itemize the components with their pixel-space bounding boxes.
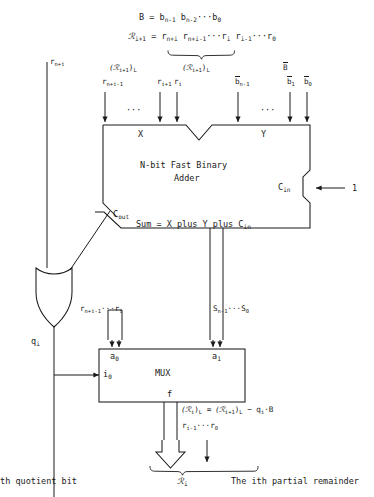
- group-label-b: B: [283, 64, 288, 72]
- result-underbrace: [150, 466, 258, 475]
- group-label-middle: (ℛi+1)L: [183, 64, 210, 73]
- cin-value-label: 1: [352, 184, 357, 193]
- bit-label-y2: b1: [287, 78, 295, 87]
- cin-label: Cin: [278, 183, 290, 193]
- mux-select-label: i0: [103, 370, 112, 380]
- remainder-underbrace: [168, 51, 235, 60]
- mux-output-label: f: [167, 390, 172, 399]
- bit-label-x3: ri: [174, 78, 182, 87]
- division-datapath-diagram: B = bn-1 bn-2···b0 ℛi+1 = rn+i rn+i-1···…: [0, 0, 374, 497]
- output-equation-line2: ri-1···r0: [182, 422, 218, 431]
- port-label-y: Y: [261, 130, 266, 139]
- divisor-definition: B = bn-1 bn-2···b0: [139, 13, 221, 23]
- bit-label-x2: ri+1: [157, 78, 171, 87]
- remainder-high-arrow: [156, 440, 185, 468]
- qi-label: qi: [31, 337, 40, 347]
- mux-a1-label: a1: [212, 352, 221, 362]
- bit-label-rni: rn+i: [50, 58, 64, 67]
- bit-label-y1: bn-1: [235, 78, 249, 87]
- or-gate: [36, 268, 72, 327]
- group-label-left: (ℛi+1)L: [110, 64, 137, 73]
- sum-bus: [210, 228, 223, 347]
- remainder-definition: ℛi+1 = rn+i rn+i-1···ri ri-1···r0: [128, 32, 276, 42]
- y-ellipsis: ···: [260, 106, 275, 115]
- caption-quotient-bit: ith quotient bit: [0, 477, 77, 486]
- a0-bus-label: rn+i-1···ri: [80, 305, 123, 314]
- mux-name-label: MUX: [155, 369, 170, 378]
- result-label: ℛi: [177, 477, 188, 487]
- sum-bus-label: Sn-1···S0: [213, 305, 249, 314]
- mux-a0-label: a0: [110, 352, 119, 362]
- output-equation-line1: (ℛi)L = (ℛi+1)L − qi·B: [182, 406, 273, 415]
- cout-label: Cout: [113, 210, 129, 220]
- bit-label-y3: b0: [304, 78, 312, 87]
- x-ellipsis: ···: [126, 106, 141, 115]
- adder-title-line1: N-bit Fast Binary: [140, 161, 227, 170]
- adder-title-line2: Adder: [174, 174, 200, 183]
- mux-output-bus: [164, 402, 177, 440]
- cout-wire: [70, 211, 110, 270]
- port-label-x: X: [138, 130, 143, 139]
- sum-equation: Sum = X plus Y plus Cin: [136, 220, 251, 230]
- bit-label-x1: rn+i-1: [102, 78, 123, 87]
- a0-bus: [108, 310, 122, 347]
- caption-partial-remainder: The ith partial remainder: [231, 477, 359, 486]
